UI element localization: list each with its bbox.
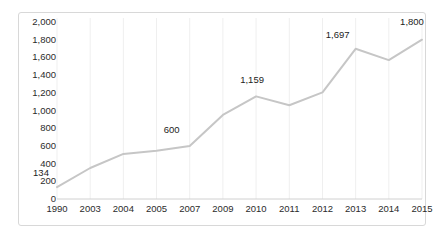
data-point-label: 600 — [164, 124, 180, 135]
x-tick-label: 2013 — [345, 203, 366, 214]
x-tick-label: 2007 — [179, 203, 200, 214]
data-point-label: 1,800 — [400, 16, 424, 27]
x-tick-label: 2004 — [113, 203, 134, 214]
series-line — [57, 40, 422, 187]
x-tick-label: 1990 — [46, 203, 67, 214]
data-point-label: 1,697 — [326, 29, 350, 40]
gridlines — [57, 18, 422, 199]
x-tick-label: 2005 — [146, 203, 167, 214]
x-tick-label: 2010 — [246, 203, 267, 214]
x-tick-label: 2015 — [411, 203, 432, 214]
x-tick-label: 2012 — [312, 203, 333, 214]
data-point-label: 134 — [33, 167, 49, 178]
line-chart: 02004006008001,0001,2001,4001,6001,8002,… — [0, 0, 447, 242]
x-tick-label: 2011 — [279, 203, 299, 214]
x-tick-label: 2014 — [378, 203, 399, 214]
x-tick-label: 2009 — [212, 203, 233, 214]
x-tick-label: 2003 — [80, 203, 101, 214]
data-point-label: 1,159 — [240, 74, 264, 85]
